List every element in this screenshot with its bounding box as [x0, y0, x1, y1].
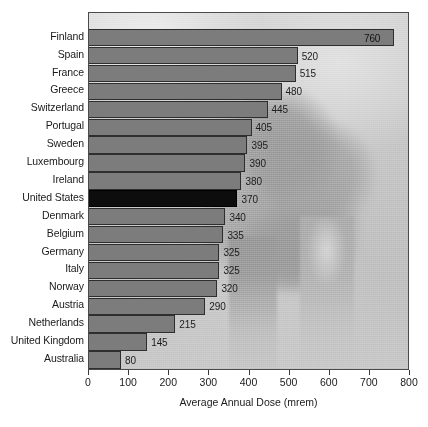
- bar-row: 325: [89, 262, 409, 279]
- category-label-germany: Germany: [0, 245, 84, 257]
- x-axis-tick-label: 700: [360, 376, 378, 388]
- bar-value-label: 520: [302, 50, 318, 61]
- bar-france[interactable]: [89, 65, 296, 82]
- bar-united-kingdom[interactable]: [89, 333, 147, 350]
- bar-row: 520: [89, 47, 409, 64]
- bar-value-label: 445: [272, 104, 288, 115]
- bar-row: 390: [89, 154, 409, 171]
- x-axis-tick: [208, 370, 209, 375]
- bar-belgium[interactable]: [89, 226, 223, 243]
- radiation-dose-bar-chart: 7605205154804454053953903803703403353253…: [0, 0, 428, 427]
- category-label-spain: Spain: [0, 48, 84, 60]
- bar-row: 325: [89, 244, 409, 261]
- category-label-ireland: Ireland: [0, 173, 84, 185]
- bar-row: 395: [89, 136, 409, 153]
- x-axis-tick-label: 500: [280, 376, 298, 388]
- x-axis-tick-label: 300: [200, 376, 218, 388]
- x-axis-tick-label: 100: [119, 376, 137, 388]
- bars-layer: 7605205154804454053953903803703403353253…: [89, 13, 408, 369]
- category-label-netherlands: Netherlands: [0, 316, 84, 328]
- bar-row: 380: [89, 172, 409, 189]
- bar-value-label: 320: [221, 283, 237, 294]
- category-label-sweden: Sweden: [0, 137, 84, 149]
- category-labels: FinlandSpainFranceGreeceSwitzerlandPortu…: [0, 12, 84, 370]
- bar-row: 760: [89, 29, 409, 46]
- bar-value-label: 335: [227, 229, 243, 240]
- x-axis-tick: [249, 370, 250, 375]
- x-axis-title: Average Annual Dose (mrem): [88, 396, 409, 408]
- bar-value-label: 760: [364, 32, 380, 43]
- bar-value-label: 80: [125, 354, 136, 365]
- bar-value-label: 405: [256, 122, 272, 133]
- bar-australia[interactable]: [89, 351, 121, 368]
- category-label-luxembourg: Luxembourg: [0, 155, 84, 167]
- category-label-united-states: United States: [0, 191, 84, 203]
- x-axis-tick: [88, 370, 89, 375]
- bar-switzerland[interactable]: [89, 101, 268, 118]
- bar-row: 335: [89, 226, 409, 243]
- bar-row: 290: [89, 298, 409, 315]
- bar-united-states[interactable]: [89, 190, 237, 207]
- bar-ireland[interactable]: [89, 172, 241, 189]
- bar-value-label: 395: [251, 140, 267, 151]
- bar-value-label: 340: [229, 211, 245, 222]
- category-label-france: France: [0, 66, 84, 78]
- bar-spain[interactable]: [89, 47, 298, 64]
- category-label-australia: Australia: [0, 352, 84, 364]
- category-label-greece: Greece: [0, 83, 84, 95]
- bar-value-label: 480: [286, 86, 302, 97]
- bar-row: 480: [89, 83, 409, 100]
- bar-italy[interactable]: [89, 262, 219, 279]
- category-label-united-kingdom: United Kingdom: [0, 334, 84, 346]
- category-label-austria: Austria: [0, 298, 84, 310]
- bar-sweden[interactable]: [89, 136, 247, 153]
- x-axis-tick-label: 600: [320, 376, 338, 388]
- x-axis-tick: [369, 370, 370, 375]
- bar-row: 405: [89, 119, 409, 136]
- bar-row: 340: [89, 208, 409, 225]
- bar-portugal[interactable]: [89, 119, 252, 136]
- category-label-portugal: Portugal: [0, 119, 84, 131]
- bar-value-label: 215: [179, 319, 195, 330]
- bar-germany[interactable]: [89, 244, 219, 261]
- bar-value-label: 325: [223, 247, 239, 258]
- bar-austria[interactable]: [89, 298, 205, 315]
- x-axis-tick: [289, 370, 290, 375]
- bar-denmark[interactable]: [89, 208, 225, 225]
- bar-row: 215: [89, 315, 409, 332]
- bar-value-label: 290: [209, 301, 225, 312]
- category-label-finland: Finland: [0, 30, 84, 42]
- bar-row: 515: [89, 65, 409, 82]
- bar-luxembourg[interactable]: [89, 154, 245, 171]
- x-axis-tick: [329, 370, 330, 375]
- bar-value-label: 380: [245, 175, 261, 186]
- category-label-italy: Italy: [0, 262, 84, 274]
- bar-value-label: 515: [300, 68, 316, 79]
- category-label-switzerland: Switzerland: [0, 101, 84, 113]
- x-axis-tick-label: 400: [240, 376, 258, 388]
- plot-area: 7605205154804454053953903803703403353253…: [88, 12, 409, 370]
- bar-row: 320: [89, 280, 409, 297]
- bar-row: 145: [89, 333, 409, 350]
- category-label-denmark: Denmark: [0, 209, 84, 221]
- x-axis-tick-label: 800: [400, 376, 418, 388]
- bar-norway[interactable]: [89, 280, 217, 297]
- x-axis-tick: [168, 370, 169, 375]
- x-axis-tick: [128, 370, 129, 375]
- bar-row: 445: [89, 101, 409, 118]
- category-label-belgium: Belgium: [0, 227, 84, 239]
- x-axis-tick: [409, 370, 410, 375]
- bar-greece[interactable]: [89, 83, 282, 100]
- bar-value-label: 370: [241, 193, 257, 204]
- bar-value-label: 390: [249, 157, 265, 168]
- category-label-norway: Norway: [0, 280, 84, 292]
- bar-value-label: 145: [151, 336, 167, 347]
- bar-row: 370: [89, 190, 409, 207]
- x-axis-tick-label: 200: [159, 376, 177, 388]
- bar-finland[interactable]: [89, 29, 394, 46]
- x-axis-tick-label: 0: [85, 376, 91, 388]
- bar-row: 80: [89, 351, 409, 368]
- bar-netherlands[interactable]: [89, 315, 175, 332]
- bar-value-label: 325: [223, 265, 239, 276]
